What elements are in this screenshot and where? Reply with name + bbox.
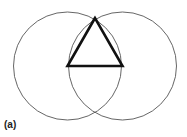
diagram-canvas	[0, 0, 187, 137]
figure-label: (a)	[4, 119, 16, 130]
equilateral-triangle	[68, 18, 123, 66]
